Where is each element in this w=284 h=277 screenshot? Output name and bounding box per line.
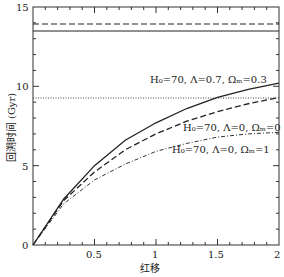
xtick: 1.5 — [208, 249, 224, 260]
x-axis-label: 红移 — [140, 260, 160, 275]
ytick: 5 — [22, 161, 28, 172]
legend-s2: H₀=70, Λ=0, Ωₘ=0 — [183, 122, 281, 133]
xtick: 2 — [274, 249, 280, 260]
chart: H₀=70, Λ=0.7, Ωₘ=0.3 H₀=70, Λ=0, Ωₘ=0 H₀… — [0, 0, 284, 277]
legend-s1: H₀=70, Λ=0.7, Ωₘ=0.3 — [150, 74, 267, 85]
ytick: 0 — [22, 240, 28, 251]
y-axis-label: 回溯时间 (Gyr) — [3, 88, 18, 168]
xtick: 0.5 — [86, 249, 102, 260]
ytick: 15 — [16, 2, 29, 13]
legend-s3: H₀=70, Λ=0, Ωₘ=1 — [172, 144, 270, 155]
xtick: 1 — [152, 249, 158, 260]
plot-area — [0, 0, 284, 277]
ytick: 10 — [16, 81, 29, 92]
